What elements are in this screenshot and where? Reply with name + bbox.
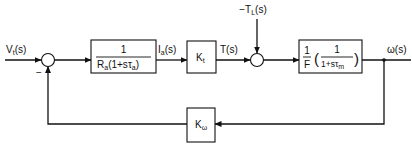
current-label: Ia(s) [158, 44, 176, 56]
load-torque-label: −TL(s) [239, 4, 267, 16]
mechanical-outer-denominator: F [304, 59, 310, 70]
output-label: ω(s) [387, 44, 406, 55]
speed-control-block-diagram: Vt(s) − 1 Ra(1+sτa) Ia(s) Kt T(s) −TL(s)… [0, 0, 412, 150]
mechanical-inner-numerator: 1 [334, 44, 340, 55]
torque-constant-block: Kt [187, 41, 216, 73]
mechanical-outer-numerator: 1 [304, 45, 310, 56]
feedback-path-to-sum [48, 67, 187, 125]
armature-numerator: 1 [121, 44, 127, 55]
armature-transfer-block: 1 Ra(1+sτa) [91, 40, 156, 73]
input-signal: Vt(s) [5, 44, 41, 60]
summing-junction-1 [42, 54, 55, 67]
feedback-gain-block: Kω [187, 108, 215, 142]
torque-label: T(s) [220, 44, 238, 55]
summing-junction-2 [251, 54, 264, 67]
mechanical-close-paren: ) [354, 50, 359, 67]
input-label: Vt(s) [6, 44, 26, 56]
mechanical-transfer-block: 1 F ( 1 1+sτm ) [299, 40, 362, 73]
feedback-minus-sign: − [36, 67, 42, 78]
mechanical-open-paren: ( [314, 50, 319, 67]
